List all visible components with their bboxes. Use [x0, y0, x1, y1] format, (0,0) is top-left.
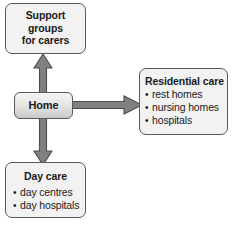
day-care-title: Day care — [6, 170, 85, 183]
care-options-diagram: Support groups for carers Home Residenti… — [0, 0, 232, 225]
arrow-down-icon — [33, 116, 53, 166]
support-groups-line-1: Support — [6, 9, 85, 22]
list-item: rest homes — [145, 88, 227, 101]
node-home: Home — [14, 92, 73, 119]
support-groups-line-3: for carers — [6, 34, 85, 47]
arrow-up-icon — [33, 53, 53, 95]
list-item: day hospitals — [13, 199, 85, 212]
residential-care-list: rest homes nursing homes hospitals — [145, 88, 227, 127]
day-care-list: day centres day hospitals — [6, 186, 85, 212]
node-day-care: Day care day centres day hospitals — [5, 162, 86, 218]
support-groups-line-2: groups — [6, 22, 85, 35]
home-label: Home — [28, 99, 58, 112]
list-item: day centres — [13, 186, 85, 199]
node-residential-care: Residential care rest homes nursing home… — [139, 68, 228, 135]
list-item: nursing homes — [145, 101, 227, 114]
list-item: hospitals — [145, 114, 227, 127]
node-support-groups: Support groups for carers — [5, 3, 86, 54]
residential-care-title: Residential care — [145, 75, 227, 88]
arrow-right-icon — [68, 94, 143, 116]
